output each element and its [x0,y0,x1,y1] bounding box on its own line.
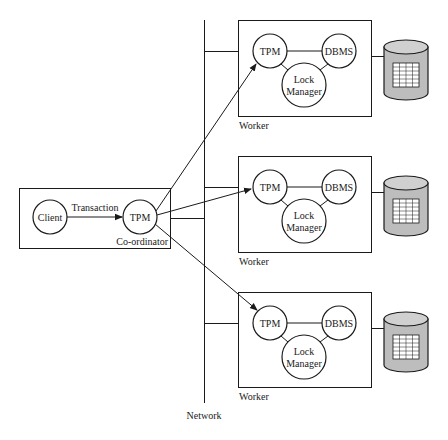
tpm-label: TPM [260,318,281,329]
distributed-transaction-diagram: Network Client Transaction TPM Co-ordina… [0,0,448,440]
database-icon [384,40,428,100]
lock-manager-label-line2: Manager [286,358,322,369]
worker-label: Worker [239,391,269,402]
worker-node-2: TPM DBMS Lock Manager Worker [205,157,429,268]
lock-manager-label-line1: Lock [294,210,315,221]
worker-label: Worker [239,256,269,267]
lock-manager-circle [282,199,326,243]
lock-manager-circle [282,335,326,379]
worker-node-1: TPM DBMS Lock Manager Worker [205,21,429,132]
lock-manager-circle [282,63,326,107]
network-label: Network [187,410,222,421]
database-icon [384,312,428,372]
dbms-label: DBMS [325,182,353,193]
arrow-to-worker-3 [155,224,257,310]
tpm-lock-link [281,64,288,70]
tpm-label: TPM [260,182,281,193]
coordinator-tpm-label: TPM [130,212,151,223]
dbms-label: DBMS [325,46,353,57]
arrow-to-worker-1 [156,64,256,211]
tpm-lock-link [281,200,288,206]
network: Network [187,20,222,421]
dbms-label: DBMS [325,318,353,329]
coordinator-node: Client Transaction TPM Co-ordinator [20,189,205,249]
lock-manager-label-line1: Lock [294,346,315,357]
dbms-lock-link [320,200,328,206]
coordinator-label: Co-ordinator [116,236,168,247]
lock-manager-label-line2: Manager [286,222,322,233]
tpm-label: TPM [260,46,281,57]
dbms-lock-link [320,336,328,342]
client-label: Client [38,212,63,223]
dbms-lock-link [320,64,328,70]
transaction-label: Transaction [72,202,119,213]
database-icon [384,176,428,236]
lock-manager-label-line1: Lock [294,74,315,85]
worker-label: Worker [239,120,269,131]
worker-node-3: TPM DBMS Lock Manager Worker [205,293,429,403]
tpm-lock-link [281,336,288,342]
lock-manager-label-line2: Manager [286,86,322,97]
